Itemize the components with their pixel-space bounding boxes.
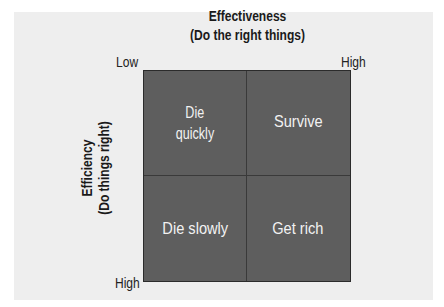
quadrant-label-line2: quickly [176,123,214,144]
quadrant-die-slowly: Die slowly [144,176,246,280]
quadrant-label: Survive [274,111,323,132]
y-axis-high-label: High [115,275,140,291]
quadrant-label: Die slowly [162,218,228,239]
y-axis-title-line2: (Do things right) [96,116,113,219]
quadrant-grid: Diequickly Survive Die slowly Get rich [143,70,351,282]
x-axis-low-label: Low [116,54,138,70]
x-axis-title: Effectiveness [67,8,427,24]
quadrant-die-quickly: Diequickly [144,71,246,175]
quadrant-get-rich: Get rich [247,176,349,280]
y-axis-title-line1: Efficiency [79,116,96,219]
x-axis-subtitle: (Do the right things) [67,27,427,43]
quadrant-label-line1: Die [186,102,205,123]
quadrant-label: Get rich [272,218,323,239]
quadrant-survive: Survive [247,71,349,171]
x-axis-high-label: High [341,54,366,70]
y-axis-title: Efficiency (Do things right) [79,116,113,219]
